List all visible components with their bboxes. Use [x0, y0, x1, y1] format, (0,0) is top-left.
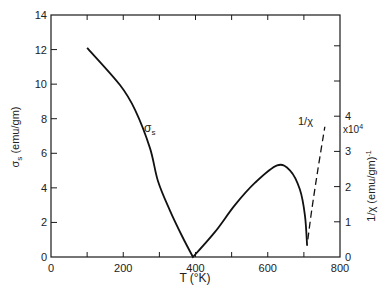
x-tick-label: 800	[331, 262, 349, 274]
x-tick-label: 200	[114, 262, 132, 274]
axes-frame	[51, 15, 340, 257]
svg-text:1/χ (emu/gm)-1: 1/χ (emu/gm)-1	[365, 150, 377, 221]
y2-tick-label: 3	[345, 145, 351, 157]
y-tick-label: 6	[41, 147, 47, 159]
y-tick-label: 0	[41, 251, 47, 263]
y-tick-label: 4	[41, 182, 47, 194]
tick-marks	[51, 15, 340, 257]
y2-tick-label: 2	[345, 181, 351, 193]
x-tick-label: 0	[48, 262, 54, 274]
y-tick-label: 8	[41, 113, 47, 125]
y2-tick-label: 0	[345, 251, 351, 263]
x-tick-label: 600	[259, 262, 277, 274]
sigma-s-curve	[87, 48, 307, 257]
plot-frame	[51, 15, 340, 257]
svg-text:σs (emu/gm): σs (emu/gm)	[9, 107, 24, 168]
y-axis-label: σs (emu/gm)	[9, 107, 24, 168]
y-tick-label: 10	[35, 78, 47, 90]
sigma-annotation: σs	[144, 121, 155, 137]
y-axis-label-units: (emu/gm)	[9, 107, 21, 157]
chart-svg: 02004006008000246810121401234 T (°K) σs …	[0, 0, 392, 300]
y2-multiplier: x104	[343, 123, 363, 135]
y-tick-label: 12	[35, 44, 47, 56]
data-series	[87, 48, 325, 257]
y2-axis-label-text: 1/χ (emu/gm)	[365, 157, 377, 222]
y2-axis-label: 1/χ (emu/gm)-1	[365, 150, 377, 221]
y2-tick-label: 1	[345, 216, 351, 228]
y2-tick-label: 4	[345, 110, 351, 122]
tick-labels: 02004006008000246810121401234	[35, 9, 351, 274]
inverse-chi-curve	[308, 127, 325, 240]
inverse-chi-annotation: 1/χ	[298, 115, 313, 127]
x-axis-label: T (°K)	[179, 271, 210, 285]
y-tick-label: 14	[35, 9, 47, 21]
y-tick-label: 2	[41, 216, 47, 228]
y2-axis-label-superscript: -1	[365, 150, 372, 156]
chart-container: 02004006008000246810121401234 T (°K) σs …	[0, 0, 392, 300]
